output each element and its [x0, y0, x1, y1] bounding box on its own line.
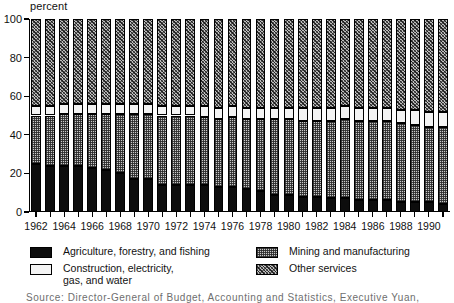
legend-column-right: Mining and manufacturing Other services [256, 246, 454, 280]
bar-segment-other-services [87, 19, 97, 104]
x-tick [190, 212, 191, 217]
bar-segment-other-services [410, 19, 420, 110]
bar-segment-agriculture [354, 200, 364, 212]
bar-segment-mining [270, 119, 280, 194]
bar-segment-mining [45, 116, 55, 166]
bar-segment-mining [185, 116, 195, 185]
bar-segment-other-services [101, 19, 111, 104]
bar-segment-other-services [242, 19, 252, 108]
y-tick-label: 80 [10, 52, 22, 64]
legend-swatch-construction-icon [30, 264, 52, 275]
x-tick-label: 1976 [221, 220, 244, 232]
legend-swatch-other-services-icon [256, 264, 278, 275]
bar-segment-construction [326, 108, 336, 122]
y-tick [24, 211, 29, 212]
bar-segment-other-services [200, 19, 210, 106]
bar-segment-agriculture [129, 179, 139, 212]
bar-segment-agriculture [270, 195, 280, 212]
x-tick-label: 1980 [277, 220, 300, 232]
bar [326, 19, 336, 212]
bar-segment-mining [340, 119, 350, 198]
bar [59, 19, 69, 212]
bar-segment-other-services [129, 19, 139, 104]
bar-segment-other-services [438, 19, 448, 112]
bar-segment-other-services [59, 19, 69, 104]
bar-segment-agriculture [242, 189, 252, 212]
bar [424, 19, 434, 212]
bar-segment-other-services [115, 19, 125, 104]
x-tick-label: 1964 [52, 220, 75, 232]
bar [410, 19, 420, 212]
x-tick [176, 212, 177, 217]
x-tick [442, 212, 443, 217]
bar-segment-other-services [340, 19, 350, 106]
bar-segment-other-services [284, 19, 294, 108]
bar-segment-construction [256, 108, 266, 120]
bar [270, 19, 280, 212]
bar-segment-other-services [31, 19, 41, 106]
bar [129, 19, 139, 212]
bar-segment-construction [340, 106, 350, 120]
bar-segment-other-services [396, 19, 406, 110]
bar-segment-construction [101, 104, 111, 114]
x-tick-label: 1972 [165, 220, 188, 232]
x-tick [260, 212, 261, 217]
bar-segment-agriculture [382, 200, 392, 212]
bar-segment-construction [270, 108, 280, 120]
bar-segment-agriculture [410, 202, 420, 212]
bar-segment-construction [228, 106, 238, 118]
x-tick [204, 212, 205, 217]
bar-segment-agriculture [59, 166, 69, 212]
bar-segment-construction [171, 106, 181, 116]
bar-segment-agriculture [284, 195, 294, 212]
bar-segment-construction [354, 108, 364, 122]
bar-segment-other-services [73, 19, 83, 104]
x-tick-label: 1970 [137, 220, 160, 232]
bar-segment-other-services [157, 19, 167, 106]
bar-segment-construction [298, 108, 308, 122]
bar-segment-other-services [171, 19, 181, 106]
bar-segment-agriculture [171, 185, 181, 212]
bar [185, 19, 195, 212]
bar [368, 19, 378, 212]
x-tick [246, 212, 247, 217]
bar-segment-construction [200, 106, 210, 118]
bar-segment-mining [115, 114, 125, 174]
bar-segment-construction [157, 106, 167, 116]
bar-segment-agriculture [73, 166, 83, 212]
bar-segment-mining [143, 114, 153, 180]
bar-segment-other-services [298, 19, 308, 108]
x-tick-label: 1988 [389, 220, 412, 232]
y-tick-label: 100 [4, 13, 22, 25]
bar-segment-agriculture [396, 202, 406, 212]
bar-segment-mining [368, 121, 378, 200]
bar-segment-other-services [228, 19, 238, 106]
bar-segment-construction [214, 108, 224, 120]
bar [256, 19, 266, 212]
bar-segment-mining [326, 121, 336, 198]
bar [200, 19, 210, 212]
x-tick [134, 212, 135, 217]
bar-segment-construction [312, 108, 322, 122]
bar [396, 19, 406, 212]
y-tick [24, 134, 29, 135]
legend-label-construction-line2: gas, and water [63, 275, 174, 287]
y-tick-label: 40 [10, 129, 22, 141]
bar-segment-mining [298, 121, 308, 196]
bar-segment-agriculture [200, 185, 210, 212]
legend-item-construction: Construction, electricity, gas, and wate… [30, 263, 245, 286]
bar-segment-construction [396, 110, 406, 124]
bar-segment-mining [157, 116, 167, 185]
bar-segment-construction [438, 112, 448, 127]
legend-column-left: Agriculture, forestry, and fishing Const… [30, 246, 245, 291]
bar-segment-mining [396, 123, 406, 202]
bar [284, 19, 294, 212]
x-tick [148, 212, 149, 217]
bar-segment-other-services [382, 19, 392, 108]
legend-label-construction-line1: Construction, electricity, [63, 262, 174, 274]
bar-segment-construction [87, 104, 97, 114]
y-tick-label: 20 [10, 167, 22, 179]
bar-segment-mining [438, 127, 448, 204]
x-tick [50, 212, 51, 217]
x-tick [274, 212, 275, 217]
